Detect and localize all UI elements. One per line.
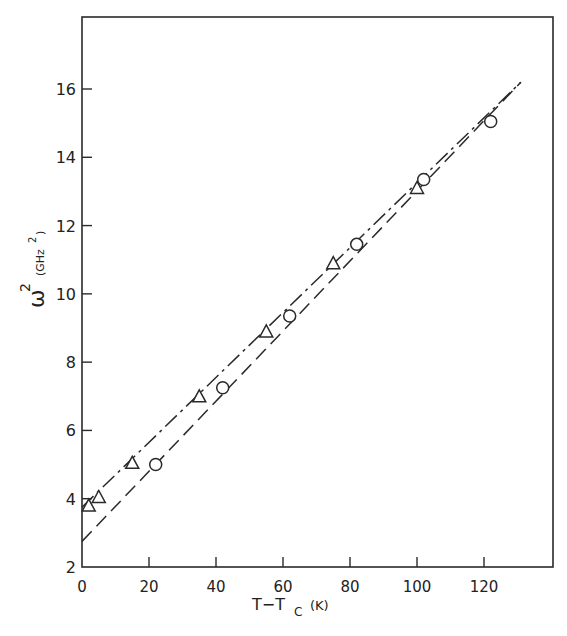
data-points (82, 115, 497, 511)
triangle-marker (260, 325, 273, 337)
plot-frame (82, 17, 553, 567)
circle-marker (485, 115, 497, 127)
y-axis-title-sup: 2 (17, 283, 33, 292)
x-tick-label: 0 (77, 578, 87, 596)
dash-dot-fit-line (82, 82, 521, 507)
y-axis-title: ω 2 (GHz 2 ) (17, 231, 49, 308)
x-axis-title-sub: C (294, 605, 302, 619)
circle-marker (150, 459, 162, 471)
y-tick-label: 14 (56, 148, 76, 167)
y-axis-title-unit: (GHz (34, 249, 47, 276)
y-axis-title-unit-close: ) (34, 231, 47, 235)
circle-marker (351, 238, 363, 250)
x-tick-label: 60 (273, 578, 292, 596)
y-tick-label: 10 (56, 285, 76, 304)
triangle-marker (92, 491, 105, 503)
circle-marker (418, 173, 430, 185)
y-tick-label: 2 (66, 558, 76, 577)
x-tick-label: 120 (470, 578, 499, 596)
x-axis-title-main: T−T (251, 595, 285, 614)
x-axis-title: T−T C (K) (251, 595, 329, 619)
y-tick-label: 4 (66, 490, 76, 509)
y-axis-title-unit-sup: 2 (27, 237, 38, 243)
circle-marker (284, 310, 296, 322)
dashed-fit-line (82, 82, 521, 541)
y-tick-label: 16 (56, 80, 76, 99)
plot-border (82, 17, 553, 567)
chart: 020406080100120 246810121416 T−T C (K) ω… (0, 0, 567, 636)
x-tick-label: 80 (340, 578, 359, 596)
x-axis-ticks: 020406080100120 (77, 557, 498, 596)
x-axis-title-unit: (K) (310, 598, 329, 613)
y-tick-label: 12 (56, 217, 76, 236)
x-tick-label: 100 (403, 578, 432, 596)
x-tick-label: 40 (206, 578, 225, 596)
triangle-marker (327, 257, 340, 269)
circle-marker (217, 382, 229, 394)
triangle-marker (193, 390, 206, 402)
y-tick-label: 8 (66, 353, 76, 372)
y-tick-label: 6 (66, 421, 76, 440)
fit-lines (82, 82, 521, 541)
x-tick-label: 20 (139, 578, 158, 596)
